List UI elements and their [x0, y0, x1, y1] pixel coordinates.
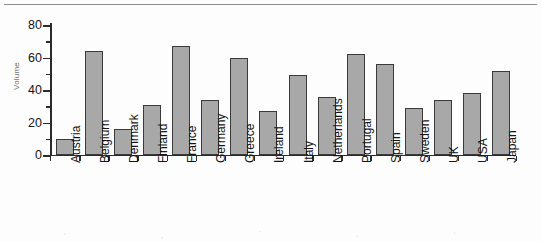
y-axis-tick-label: 40: [16, 84, 42, 97]
x-axis-category-label: Greece: [244, 73, 256, 163]
x-axis-category-label: Netherlands: [332, 73, 344, 163]
x-axis-category-label: Portugal: [361, 73, 373, 163]
scan-noise: [0, 228, 541, 242]
x-axis-category-label: Spain: [390, 73, 402, 163]
x-axis-category-label: Denmark: [128, 73, 140, 163]
y-axis-major-tick: [43, 90, 50, 92]
x-axis-category-label: UK: [448, 73, 460, 163]
x-axis-category-label: Ireland: [273, 73, 285, 163]
y-axis-tick-label: 0: [16, 149, 42, 162]
x-axis-category-label: Austria: [70, 73, 82, 163]
y-axis-major-tick: [43, 123, 50, 125]
y-axis-major-tick: [43, 25, 50, 27]
y-axis-tick-labels: 020406080: [14, 25, 42, 155]
y-axis-tick-label: 60: [16, 52, 42, 65]
y-axis-tick-label: 80: [16, 19, 42, 32]
bar-chart-figure: Volume 020406080 AustriaBelgiumDenmarkFi…: [0, 0, 541, 242]
x-axis-category-label: Japan: [506, 73, 518, 163]
y-axis-tick-label: 20: [16, 117, 42, 130]
x-axis-category-label: Italy: [303, 73, 315, 163]
y-axis-major-tick: [43, 155, 50, 157]
x-axis-category-label: France: [186, 73, 198, 163]
figure-top-rule: [4, 4, 537, 5]
x-axis-category-label: Sweden: [419, 73, 431, 163]
y-axis-major-tick: [43, 58, 50, 60]
x-axis-category-label: USA: [477, 73, 489, 163]
x-axis-tick: [50, 156, 51, 161]
x-axis-category-label: Finland: [157, 73, 169, 163]
x-axis-category-label: Germany: [215, 73, 227, 163]
x-axis-category-label: Belgium: [99, 73, 111, 163]
